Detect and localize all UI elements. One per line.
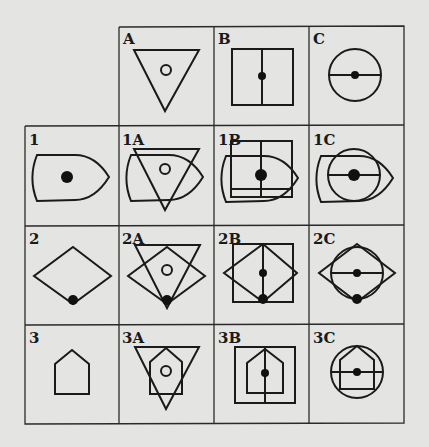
small-circle xyxy=(161,65,171,75)
cell-3A: 3A xyxy=(122,329,199,409)
cell-1B: 1B xyxy=(218,131,298,202)
cell-2: 2 xyxy=(29,230,111,305)
house-shape xyxy=(340,346,374,389)
dot xyxy=(352,294,362,304)
grid-lines xyxy=(25,26,404,424)
house-shape xyxy=(55,350,89,394)
small-circle xyxy=(162,265,172,275)
cell-2A: 2A xyxy=(122,230,205,308)
dot xyxy=(61,171,73,183)
dot xyxy=(162,295,172,305)
cell-label: 3A xyxy=(122,329,144,347)
cell-label: 3 xyxy=(29,329,39,347)
cell-1C: 1C xyxy=(313,131,393,202)
cell-label: 1C xyxy=(313,131,335,149)
cell-label: 1 xyxy=(29,131,39,149)
dot xyxy=(353,368,361,376)
cell-3: 3 xyxy=(29,329,89,394)
cell-label: B xyxy=(218,30,231,48)
dot xyxy=(68,295,78,305)
cell-3C: 3C xyxy=(313,329,383,398)
cell-2B: 2B xyxy=(218,230,297,304)
shape-grid-diagram: A B C 1 1A 1B 1C xyxy=(0,0,429,447)
dot xyxy=(258,72,266,80)
cell-label: 3C xyxy=(313,329,335,347)
cell-C: C xyxy=(313,30,381,101)
dot xyxy=(255,169,267,181)
dot xyxy=(258,294,268,304)
cell-label: 2B xyxy=(218,230,241,248)
triangle-shape xyxy=(135,347,199,409)
cell-label: 1A xyxy=(122,131,144,149)
cell-label: A xyxy=(122,30,135,48)
cell-label: 3B xyxy=(218,329,241,347)
dot xyxy=(353,269,361,277)
cell-2C: 2C xyxy=(313,230,395,304)
dot xyxy=(261,369,269,377)
cell-1A: 1A xyxy=(122,131,203,210)
dot xyxy=(351,71,359,79)
cell-A: A xyxy=(122,30,199,111)
cell-B: B xyxy=(218,30,293,105)
cell-label: 2 xyxy=(29,230,39,248)
triangle-shape xyxy=(134,50,199,111)
cell-1: 1 xyxy=(29,131,109,201)
cell-label: C xyxy=(313,30,325,48)
cell-3B: 3B xyxy=(218,329,295,403)
dot xyxy=(348,169,360,181)
dot xyxy=(259,269,267,277)
small-circle xyxy=(160,164,170,174)
small-circle xyxy=(161,366,171,376)
cell-label: 2C xyxy=(313,230,335,248)
